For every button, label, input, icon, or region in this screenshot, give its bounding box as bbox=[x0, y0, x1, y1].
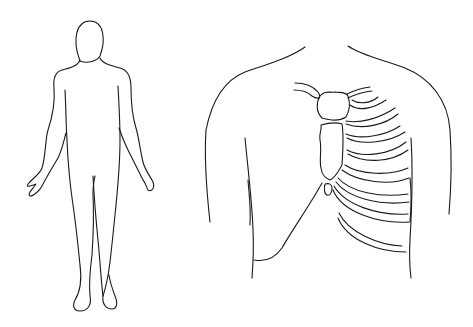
sternum-body bbox=[320, 123, 343, 180]
rib-1a bbox=[347, 87, 370, 94]
xiphoid bbox=[324, 184, 332, 196]
rib-5a bbox=[347, 142, 406, 154]
right-shoulder-outline bbox=[348, 46, 451, 214]
left-torso-side bbox=[245, 138, 253, 278]
inner-leg-line bbox=[93, 176, 103, 296]
rib-4b bbox=[347, 132, 405, 142]
ribs bbox=[333, 87, 409, 252]
left-shoulder-outline bbox=[205, 47, 305, 222]
sternum bbox=[294, 83, 349, 195]
rib-6b bbox=[342, 170, 409, 182]
rib-6a bbox=[345, 165, 408, 173]
human-body-outline bbox=[27, 21, 153, 311]
right-arm-inner bbox=[410, 178, 411, 222]
rib-2a bbox=[352, 97, 378, 103]
left-leg-outline bbox=[65, 90, 95, 311]
right-arm-outline bbox=[100, 58, 154, 191]
head-outline bbox=[76, 21, 103, 62]
rib-9b bbox=[338, 218, 406, 252]
rib-5b bbox=[348, 150, 408, 160]
manubrium bbox=[317, 92, 349, 120]
rib-3b bbox=[346, 114, 398, 127]
left-arm-outline bbox=[27, 60, 80, 196]
rib-4a bbox=[346, 126, 400, 137]
costal-margin-left bbox=[254, 183, 322, 261]
right-leg-outline bbox=[103, 86, 120, 309]
diagram-canvas bbox=[0, 0, 473, 327]
left-clavicle bbox=[294, 83, 320, 98]
rib-3a bbox=[346, 108, 395, 122]
chest-outline bbox=[205, 46, 451, 278]
